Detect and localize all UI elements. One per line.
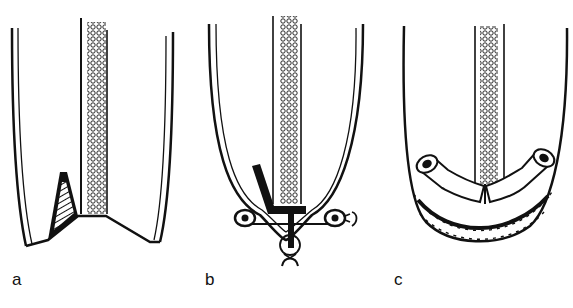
organ-wall-left xyxy=(12,28,26,246)
panel-c: c xyxy=(380,0,573,308)
panel-b: b xyxy=(190,0,380,308)
panel-label-a: a xyxy=(12,270,21,290)
panel-b-drawing xyxy=(190,0,380,308)
cut-edge xyxy=(26,216,160,246)
mesh-tube xyxy=(480,26,498,184)
mesh-tube xyxy=(87,22,106,214)
suture-line xyxy=(418,196,548,228)
t-instrument xyxy=(288,212,294,248)
panel-a-drawing xyxy=(0,0,190,308)
mesh-tube xyxy=(280,16,298,204)
panel-a: a xyxy=(0,0,190,308)
suture-end-right xyxy=(345,212,357,226)
panel-label-b: b xyxy=(205,270,214,290)
panel-label-c: c xyxy=(394,270,403,290)
panel-c-drawing xyxy=(380,0,573,308)
anastomosis-left xyxy=(413,152,484,202)
